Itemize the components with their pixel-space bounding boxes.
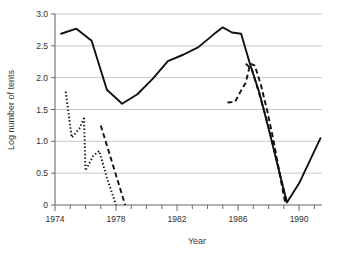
- chart-canvas: 00.51.01.52.02.53.0 19741978198219861990…: [0, 0, 339, 254]
- x-tick-label: 1974: [46, 214, 65, 224]
- x-tick-label: 1990: [290, 214, 309, 224]
- y-tick-labels-group: 00.51.01.52.02.53.0: [36, 9, 48, 210]
- y-tick-label: 1.0: [36, 136, 48, 146]
- series-line-dotted-series-a: [66, 92, 84, 138]
- x-tick-label: 1982: [168, 214, 187, 224]
- y-tick-label: 1.5: [36, 105, 48, 115]
- series-line-solid-series: [61, 27, 320, 202]
- x-axis-title: Year: [188, 236, 206, 246]
- chart-figure: 00.51.01.52.02.53.0 19741978198219861990…: [0, 0, 339, 254]
- y-tick-label: 2.0: [36, 73, 48, 83]
- y-tick-label: 0: [43, 200, 48, 210]
- x-tick-label: 1978: [107, 214, 126, 224]
- y-axis-title: Log number of tents: [6, 69, 16, 150]
- y-tick-label: 3.0: [36, 9, 48, 19]
- y-tick-label: 2.5: [36, 41, 48, 51]
- x-tick-label: 1986: [229, 214, 248, 224]
- x-tick-labels-group: 19741978198219861990: [46, 214, 309, 224]
- gridlines-group: [55, 14, 322, 173]
- series-line-dashed-series-early: [101, 125, 125, 205]
- tick-marks-group: [51, 14, 314, 211]
- data-series-group: [61, 27, 320, 205]
- y-tick-label: 0.5: [36, 168, 48, 178]
